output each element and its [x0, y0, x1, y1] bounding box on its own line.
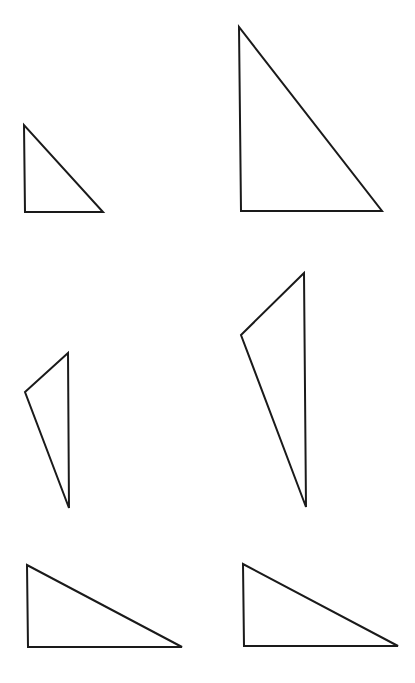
wide-right-triangle-right [243, 564, 398, 646]
large-obtuse-triangle [241, 273, 306, 507]
small-obtuse-triangle [25, 353, 69, 508]
large-right-triangle [239, 27, 382, 211]
wide-right-triangle-left [27, 565, 182, 647]
triangle-figure [0, 0, 415, 683]
small-right-triangle [24, 125, 103, 212]
